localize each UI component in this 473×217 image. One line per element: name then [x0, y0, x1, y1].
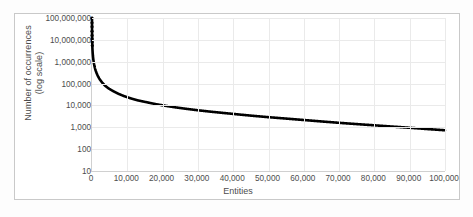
data-point-marker — [90, 21, 93, 24]
x-axis-tick-label: 60,000 — [290, 174, 315, 183]
vertical-gridline — [410, 18, 411, 171]
data-point-marker — [90, 34, 93, 37]
y-axis-tick-label: 100,000,000 — [37, 14, 91, 23]
vertical-gridline — [339, 18, 340, 171]
x-axis-tick-label: 70,000 — [326, 174, 351, 183]
y-axis-tick-label: 100,000 — [37, 79, 91, 88]
x-axis-title: Entities — [15, 186, 461, 196]
chart-container: Number of occurrences (log scale) 101001… — [14, 13, 460, 200]
vertical-gridline — [374, 18, 375, 171]
y-axis-tick-label: 100 — [37, 145, 91, 154]
data-point-marker — [90, 30, 93, 33]
x-axis-tick-label: 30,000 — [184, 174, 209, 183]
vertical-gridline — [163, 18, 164, 171]
vertical-gridline — [233, 18, 234, 171]
vertical-gridline — [198, 18, 199, 171]
data-point-marker — [91, 44, 94, 47]
x-axis-tick-label: 50,000 — [255, 174, 280, 183]
x-axis-tick-label: 20,000 — [149, 174, 174, 183]
vertical-gridline — [445, 18, 446, 171]
y-axis-title-line-1: Number of occurrences — [23, 0, 34, 148]
x-axis-tick-label: 0 — [89, 174, 94, 183]
x-axis-tick-label: 90,000 — [396, 174, 421, 183]
data-point-marker — [90, 25, 93, 28]
vertical-gridline — [127, 18, 128, 171]
data-point-marker — [91, 40, 94, 43]
y-axis-tick-labels: 101001,00010,000100,0001,000,00010,000,0… — [37, 14, 91, 201]
y-axis-tick-label: 10,000 — [37, 101, 91, 110]
x-axis-tick-label: 10,000 — [114, 174, 139, 183]
x-axis-tick-label: 40,000 — [220, 174, 245, 183]
plot-area — [91, 18, 445, 172]
x-axis-tick-label: 80,000 — [361, 174, 386, 183]
x-axis-tick-label: 100,000 — [429, 174, 459, 183]
y-axis-tick-label: 10,000,000 — [37, 35, 91, 44]
y-axis-tick-label: 10 — [37, 167, 91, 176]
y-axis-tick-label: 1,000 — [37, 123, 91, 132]
vertical-gridline — [304, 18, 305, 171]
y-axis-tick-label: 1,000,000 — [37, 57, 91, 66]
vertical-gridline — [269, 18, 270, 171]
